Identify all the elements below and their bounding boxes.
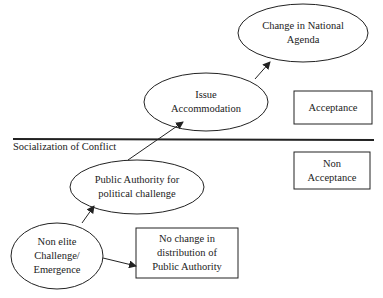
acceptance-line-1: Acceptance	[309, 101, 358, 115]
no-change-line-1: No change in	[159, 232, 215, 246]
no-change-line-3: Public Authority	[152, 260, 222, 274]
change-national-agenda-line-2: Agenda	[287, 33, 320, 47]
issue-accommodation-line-2: Accommodation	[171, 102, 241, 116]
acceptance-node: Acceptance	[294, 91, 372, 124]
non-elite-node: Non elite Challenge/ Emergence	[12, 226, 102, 286]
non-acceptance-line-1: Non	[323, 157, 341, 171]
no-change-node: No change in distribution of Public Auth…	[136, 228, 238, 278]
change-national-agenda-line-1: Change in National	[262, 19, 344, 33]
non-acceptance-node: Non Acceptance	[294, 152, 370, 189]
non-elite-line-3: Emergence	[33, 263, 80, 277]
issue-accommodation-line-1: Issue	[195, 88, 217, 102]
non-acceptance-line-2: Acceptance	[308, 171, 357, 185]
public-authority-node: Public Authority for political challenge	[72, 162, 202, 212]
socialization-of-conflict-label: Socialization of Conflict	[13, 141, 116, 152]
socialization-divider-line	[13, 139, 374, 140]
arrow-nonelite-to-nochange	[103, 258, 136, 266]
non-elite-line-1: Non elite	[38, 235, 77, 249]
arrow-publicauthority-to-issueaccommodation	[128, 122, 183, 160]
no-change-line-2: distribution of	[157, 246, 217, 260]
issue-accommodation-node: Issue Accommodation	[146, 77, 266, 127]
non-elite-line-2: Challenge/	[34, 249, 80, 263]
public-authority-line-2: political challenge	[98, 187, 175, 201]
change-national-agenda-node: Change in National Agenda	[240, 8, 366, 58]
public-authority-line-1: Public Authority for	[95, 173, 180, 187]
